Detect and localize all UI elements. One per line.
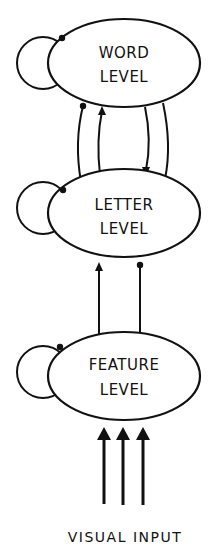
word-level-label-line2: LEVEL (100, 68, 149, 86)
feature-level-ellipse (48, 332, 200, 420)
letter-level-node: LETTER LEVEL (17, 169, 200, 257)
interactive-activation-diagram: WORD LEVEL LETTER LEVEL FEATURE LEVEL (0, 0, 214, 550)
letter-to-word-excitatory-line (98, 111, 102, 175)
word-to-letter-excitatory-line (145, 107, 149, 170)
word-level-node: WORD LEVEL (17, 19, 200, 107)
word-self-loop-dot-icon (59, 35, 65, 41)
input-arrow-1-icon (97, 427, 111, 440)
word-level-label-line1: WORD (99, 44, 150, 62)
letter-to-word-inhibitory-line (78, 106, 83, 182)
feature-to-letter-dot-icon (137, 262, 143, 268)
word-level-ellipse (48, 19, 200, 107)
visual-input-label: VISUAL INPUT (68, 529, 183, 545)
word-to-letter-inhibitory-line (163, 103, 168, 179)
input-arrow-3-icon (136, 427, 150, 440)
feature-level-node: FEATURE LEVEL (17, 332, 200, 420)
feature-self-loop-dot-icon (57, 344, 63, 350)
letter-to-word-arrow-icon (98, 106, 106, 115)
input-arrow-2-icon (116, 427, 130, 440)
letter-self-loop-dot-icon (60, 187, 66, 193)
letter-level-label-line1: LETTER (95, 196, 154, 214)
feature-to-letter-arrow-icon (95, 262, 103, 271)
letter-to-word-dot-icon (80, 103, 86, 109)
letter-feature-connections (95, 262, 143, 334)
feature-level-label-line2: LEVEL (100, 381, 149, 399)
letter-level-label-line2: LEVEL (100, 220, 149, 238)
feature-level-label-line1: FEATURE (89, 356, 160, 374)
visual-input-arrows (97, 427, 150, 505)
